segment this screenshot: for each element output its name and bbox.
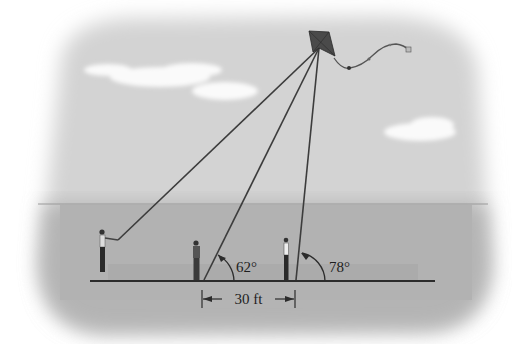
diagram-canvas: 62° 78° 30 ft [0,0,512,344]
kite-diagram: 62° 78° 30 ft [0,0,512,344]
